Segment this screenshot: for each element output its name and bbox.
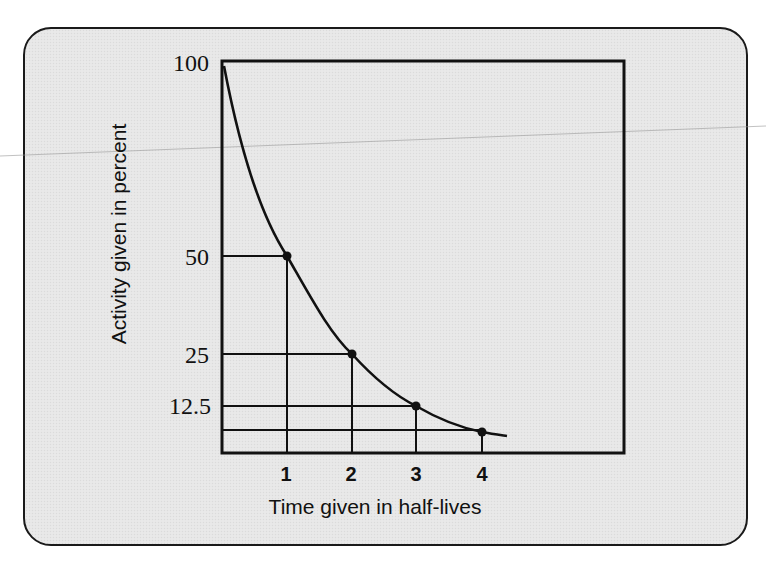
x-tick-2: 2 [345,463,356,485]
y-tick-50: 50 [185,244,209,270]
y-tick-12-5: 12.5 [169,393,211,419]
point-2 [348,350,357,359]
x-tick-4: 4 [476,463,488,485]
decay-chart: 100 50 25 12.5 1 2 3 4 Time given in hal… [0,0,766,568]
data-points [283,252,487,437]
y-tick-25: 25 [185,342,209,368]
point-1 [283,252,292,261]
decay-curve [224,66,507,436]
x-tick-1: 1 [280,463,291,485]
x-tick-3: 3 [410,463,421,485]
point-4 [478,428,487,437]
point-3 [412,402,421,411]
y-axis-title: Activity given in percent [107,124,130,345]
x-axis-title: Time given in half-lives [269,495,482,518]
y-tick-100: 100 [173,50,209,76]
